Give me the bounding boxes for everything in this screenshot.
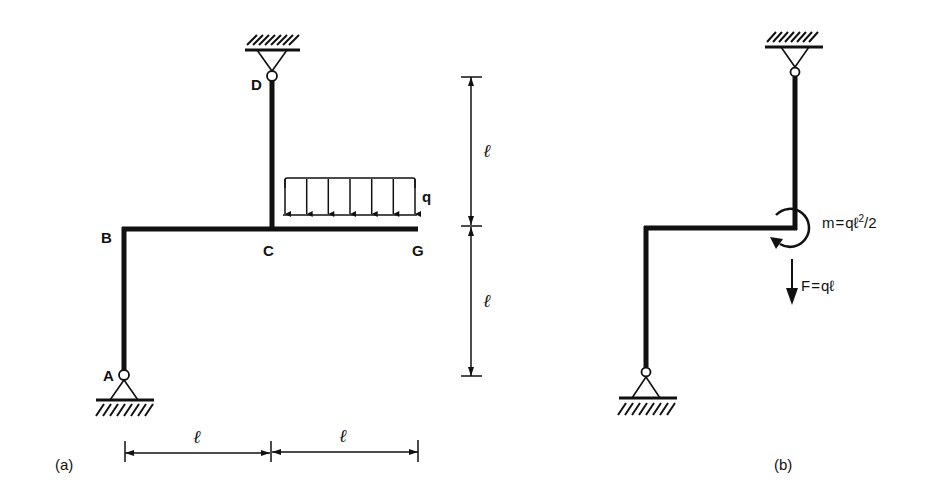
moment-symbol: m <box>822 214 835 231</box>
dim-label-vertical-upper: ℓ <box>483 140 491 161</box>
figure-a: q D B C G A ℓ ℓ ℓ ℓ (a) <box>55 35 491 473</box>
caption-a: (a) <box>55 456 73 473</box>
dim-label-horizontal-right: ℓ <box>339 425 347 446</box>
node-label-c: C <box>263 242 274 259</box>
structural-diagram: q D B C G A ℓ ℓ ℓ ℓ (a) <box>0 0 937 499</box>
node-label-a: A <box>103 367 114 384</box>
moment-label: m=qℓ2/2 <box>822 213 877 231</box>
pin-support-d-icon <box>245 35 300 81</box>
force-expr: qℓ <box>821 277 834 294</box>
dim-label-vertical-lower: ℓ <box>483 290 491 311</box>
pin-support-bottom-icon <box>618 368 677 416</box>
figure-b: m=qℓ2/2 F=qℓ (b) <box>618 32 877 473</box>
force-arrow-icon <box>786 259 798 305</box>
force-label: F=qℓ <box>801 277 834 294</box>
distributed-load-icon <box>283 178 417 215</box>
force-equals: = <box>811 277 820 294</box>
dim-label-horizontal-left: ℓ <box>193 426 201 447</box>
node-label-b: B <box>101 229 112 246</box>
vertical-dimension <box>461 77 482 376</box>
force-symbol: F <box>801 277 810 294</box>
node-label-d: D <box>251 76 262 93</box>
load-label-q: q <box>422 188 431 205</box>
pin-support-top-icon <box>765 32 823 77</box>
moment-equals: = <box>836 214 845 231</box>
moment-divisor: /2 <box>864 214 877 231</box>
moment-expr: qℓ <box>845 214 858 231</box>
caption-b: (b) <box>774 456 792 473</box>
horizontal-dimension <box>125 440 418 462</box>
node-label-g: G <box>412 242 424 259</box>
